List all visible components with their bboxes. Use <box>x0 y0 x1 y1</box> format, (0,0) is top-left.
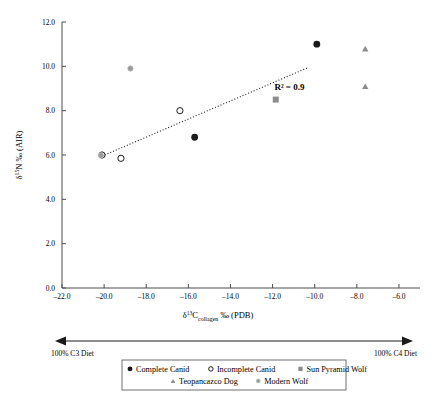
x-tick-label: –12.0 <box>263 292 281 301</box>
arrow-head-left <box>55 337 66 346</box>
y-tick-label: 6.0 <box>46 151 56 160</box>
x-tick-label: –6.0 <box>391 292 405 301</box>
series-incomplete-canid <box>99 108 183 162</box>
y-tick-label: 12.0 <box>42 18 55 27</box>
y-tick-label: 10.0 <box>42 62 55 71</box>
legend-item[interactable]: Teopancazco Dog <box>171 377 238 386</box>
series-teopancazco-dog <box>362 46 368 89</box>
legend-item[interactable]: Incomplete Canid <box>209 365 276 374</box>
legend-item-label: Sun Pyramid Wolf <box>307 365 368 374</box>
legend: Complete CanidIncomplete CanidSun Pyrami… <box>122 360 367 390</box>
legend-item[interactable]: Modern Wolf <box>256 377 308 386</box>
marker-filled-circle <box>128 366 133 371</box>
legend-item[interactable]: Complete Canid <box>128 365 190 374</box>
x-tick-label: –16.0 <box>179 292 197 301</box>
x-tick-label: –22.0 <box>53 292 71 301</box>
legend-item-label: Teopancazco Dog <box>179 377 238 386</box>
diet-label-right: 100% C4 Diet <box>374 349 418 358</box>
y-tick-label: 2.0 <box>46 239 56 248</box>
marker-filled-triangle <box>171 379 176 383</box>
marker-filled-square <box>273 97 279 103</box>
diet-label-left: 100% C3 Diet <box>51 349 95 358</box>
svg-text:δ13Ccollagen ‰ (PDB): δ13Ccollagen ‰ (PDB) <box>183 310 254 322</box>
marker-gray-dot <box>256 379 260 383</box>
marker-filled-circle <box>191 134 198 141</box>
y-tick-label: 8.0 <box>46 106 56 115</box>
x-tick-label: –20.0 <box>95 292 113 301</box>
data-points <box>98 41 368 162</box>
y-tick-label: 0.0 <box>46 284 56 293</box>
marker-filled-square <box>298 367 302 371</box>
arrow-head-right <box>402 337 413 346</box>
legend-item[interactable]: Sun Pyramid Wolf <box>298 365 367 374</box>
x-tick-label: –10.0 <box>305 292 323 301</box>
legend-item-label: Complete Canid <box>136 365 189 374</box>
x-tick-label: –14.0 <box>221 292 239 301</box>
marker-gray-dot <box>128 66 133 71</box>
r2-annotation: R² = 0.9 <box>274 82 305 92</box>
y-axis-title: δ15N ‰ (AIR) <box>14 130 24 179</box>
x-axis-ticks: –22.0–20.0–18.0–16.0–14.0–12.0–10.0–8.0–… <box>53 284 406 301</box>
marker-open-circle <box>177 108 183 114</box>
series-sun-pyramid-wolf <box>273 97 279 103</box>
legend-item-label: Modern Wolf <box>264 377 308 386</box>
scatter-plot-figure: –22.0–20.0–18.0–16.0–14.0–12.0–10.0–8.0–… <box>0 0 437 409</box>
x-axis-title: δ13Ccollagen ‰ (PDB) <box>183 310 254 322</box>
x-tick-label: –8.0 <box>349 292 363 301</box>
svg-text:δ15N ‰ (AIR): δ15N ‰ (AIR) <box>14 130 24 179</box>
marker-open-circle <box>209 367 213 371</box>
series-modern-wolf <box>98 66 133 158</box>
legend-item-label: Incomplete Canid <box>217 365 275 374</box>
marker-filled-triangle <box>362 83 368 89</box>
x-tick-label: –18.0 <box>137 292 155 301</box>
axes <box>62 22 420 288</box>
r-squared-label: R² = 0.9 <box>274 82 305 92</box>
marker-open-circle <box>118 155 124 161</box>
diet-arrow: 100% C3 Diet 100% C4 Diet <box>51 337 418 358</box>
marker-gray-dot <box>98 153 103 158</box>
y-tick-label: 4.0 <box>46 195 56 204</box>
marker-filled-circle <box>313 41 320 48</box>
marker-filled-triangle <box>362 46 368 52</box>
chart-canvas: –22.0–20.0–18.0–16.0–14.0–12.0–10.0–8.0–… <box>0 0 437 409</box>
